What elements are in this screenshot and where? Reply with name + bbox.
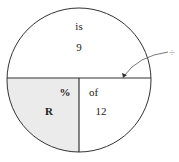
arrow-head-icon [122, 73, 127, 78]
divide-sign: ÷ [169, 46, 175, 58]
percent-circle-diagram: is 9 % R of 12 ÷ [0, 0, 179, 162]
top-label: is [75, 20, 82, 32]
top-value: 9 [76, 41, 82, 53]
rate-value: R [45, 105, 54, 117]
division-arrow [124, 52, 168, 76]
percent-label: % [60, 86, 71, 98]
of-label: of [89, 86, 99, 98]
base-value: 12 [96, 105, 107, 117]
